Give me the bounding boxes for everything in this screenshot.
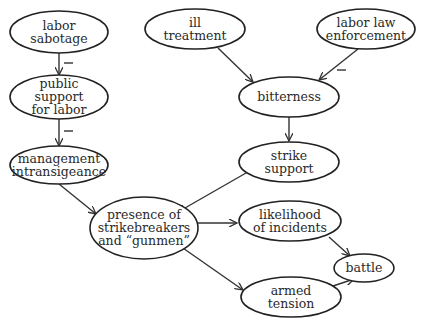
edge-public_support-to-management_intransigeance bbox=[59, 119, 73, 146]
arrow-icon bbox=[218, 48, 253, 82]
node-ill-treatment: illtreatment bbox=[145, 9, 245, 49]
arrow-icon bbox=[180, 246, 243, 290]
edge-strikebreakers-to-armed_tension bbox=[180, 246, 243, 290]
node-label: bitterness bbox=[257, 89, 321, 104]
edge-strike_support-to-strikebreakers bbox=[178, 173, 246, 212]
node-label: for labor bbox=[31, 102, 86, 117]
nodes-layer: laborsabotagepublicsupportfor labormanag… bbox=[10, 9, 415, 317]
node-strikebreakers: presence ofstrikebreakersand “gunmen” bbox=[90, 197, 198, 259]
node-label: of incidents bbox=[253, 220, 327, 235]
node-label: enforcement bbox=[326, 28, 406, 43]
edge-labor_law_enforcement-to-bitterness bbox=[319, 49, 358, 80]
node-label: treatment bbox=[163, 28, 226, 43]
node-labor-sabotage: laborsabotage bbox=[10, 11, 108, 53]
node-label: battle bbox=[346, 260, 383, 275]
node-public-support: publicsupportfor labor bbox=[10, 75, 108, 119]
arrow-icon bbox=[59, 184, 96, 214]
node-strike-support: strikesupport bbox=[239, 142, 339, 182]
node-bitterness: bitterness bbox=[239, 77, 339, 117]
edge-management_intransigeance-to-strikebreakers bbox=[59, 184, 96, 214]
node-battle: battle bbox=[334, 254, 394, 282]
edge-likelihood_incidents-to-battle bbox=[329, 237, 350, 256]
causal-diagram: laborsabotagepublicsupportfor labormanag… bbox=[0, 0, 422, 329]
node-label: and “gunmen” bbox=[98, 233, 190, 248]
node-labor-law-enforcement: labor lawenforcement bbox=[317, 9, 415, 49]
node-likelihood-incidents: likelihoodof incidents bbox=[239, 201, 341, 241]
node-label: intransigeance bbox=[12, 164, 106, 179]
arrow-icon bbox=[329, 237, 350, 256]
arrow-icon bbox=[178, 173, 246, 212]
node-label: support bbox=[265, 161, 314, 176]
node-label: sabotage bbox=[30, 31, 87, 46]
node-label: tension bbox=[268, 296, 314, 311]
node-management-intransigeance: managementintransigeance bbox=[10, 146, 108, 184]
edge-ill_treatment-to-bitterness bbox=[218, 48, 253, 82]
arrow-icon bbox=[319, 49, 358, 80]
edge-labor_sabotage-to-public_support bbox=[59, 53, 73, 75]
node-armed-tension: armedtension bbox=[241, 277, 341, 317]
